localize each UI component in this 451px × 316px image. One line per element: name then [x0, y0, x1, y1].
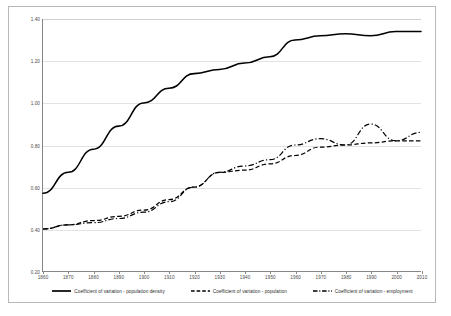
x-tick-mark	[397, 271, 398, 274]
x-tick-mark	[43, 271, 44, 274]
x-tick-label: 1950	[265, 275, 276, 280]
x-tick-mark	[119, 271, 120, 274]
x-tick-label: 1890	[113, 275, 124, 280]
plot-area: 0.200.400.600.801.001.201.40 18601870188…	[42, 19, 421, 272]
x-tick-label: 1930	[215, 275, 226, 280]
legend-label: Coefficient of variation - population de…	[74, 289, 165, 294]
x-tick-mark	[321, 271, 322, 274]
legend-swatch-dashdot	[313, 288, 332, 294]
legend-label: Coefficient of variation - employment	[335, 289, 413, 294]
x-tick-label: 1880	[88, 275, 99, 280]
legend-item[interactable]: Coefficient of variation - population de…	[52, 288, 165, 294]
x-tick-label: 1940	[240, 275, 251, 280]
x-tick-mark	[371, 271, 372, 274]
x-tick-mark	[68, 271, 69, 274]
y-tick-label: 1.20	[31, 59, 40, 64]
x-tick-label: 1960	[290, 275, 301, 280]
legend-item[interactable]: Coefficient of variation - employment	[313, 288, 413, 294]
x-tick-mark	[195, 271, 196, 274]
chart-legend: Coefficient of variation - population de…	[42, 283, 423, 299]
y-tick-label: 0.60	[31, 185, 40, 190]
legend-swatch-solid	[52, 288, 71, 294]
x-tick-mark	[220, 271, 221, 274]
legend-item[interactable]: Coefficient of variation - population	[191, 288, 287, 294]
x-tick-label: 1900	[139, 275, 150, 280]
series-line-population	[43, 141, 421, 229]
x-tick-label: 1910	[164, 275, 175, 280]
x-tick-mark	[346, 271, 347, 274]
series-line-employment	[43, 124, 421, 229]
legend-swatch-dashed	[191, 288, 210, 294]
y-tick-label: 1.00	[31, 101, 40, 106]
y-tick-label: 0.80	[31, 143, 40, 148]
series-layer	[43, 19, 421, 271]
y-tick-label: 0.20	[31, 270, 40, 275]
x-tick-label: 1920	[189, 275, 200, 280]
x-tick-mark	[144, 271, 145, 274]
x-tick-label: 1870	[63, 275, 74, 280]
x-tick-label: 1860	[38, 275, 49, 280]
x-tick-mark	[296, 271, 297, 274]
y-tick-label: 0.40	[31, 227, 40, 232]
chart-figure: 0.200.400.600.801.001.201.40 18601870188…	[8, 6, 436, 303]
x-tick-mark	[169, 271, 170, 274]
x-tick-mark	[422, 271, 423, 274]
x-tick-label: 1980	[341, 275, 352, 280]
x-tick-mark	[270, 271, 271, 274]
x-tick-mark	[94, 271, 95, 274]
x-tick-label: 1990	[366, 275, 377, 280]
x-tick-mark	[245, 271, 246, 274]
legend-label: Coefficient of variation - population	[213, 289, 287, 294]
x-tick-label: 1970	[316, 275, 327, 280]
x-tick-label: 2000	[391, 275, 402, 280]
x-tick-label: 2010	[417, 275, 428, 280]
plot-wrapper: 0.200.400.600.801.001.201.40 18601870188…	[9, 7, 435, 302]
y-tick-label: 1.40	[31, 17, 40, 22]
